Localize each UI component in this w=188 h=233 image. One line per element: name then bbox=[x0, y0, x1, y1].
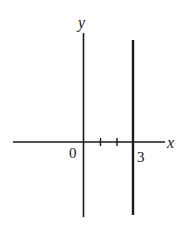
origin-label: 0 bbox=[69, 145, 77, 161]
y-axis-label: y bbox=[76, 14, 86, 32]
x-axis-label: x bbox=[166, 134, 174, 151]
line-x-value-label: 3 bbox=[137, 149, 145, 165]
coordinate-diagram: y x 0 3 bbox=[0, 0, 188, 233]
